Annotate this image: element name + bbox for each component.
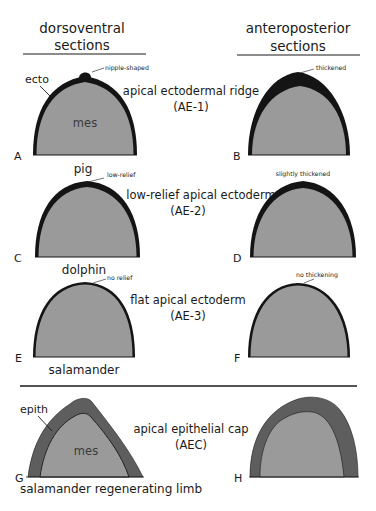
panel-f-limb-section	[248, 283, 350, 357]
header-left-line2: sections	[54, 37, 110, 53]
panel-label-f: F	[234, 352, 240, 365]
annotation-leader	[93, 279, 106, 283]
annotation-leader	[92, 68, 104, 72]
panel-b-limb-section	[248, 72, 350, 155]
panel-h-limb-section	[249, 397, 359, 477]
header-right-line2: sections	[270, 38, 326, 54]
category-ae3: flat apical ectoderm	[130, 293, 245, 307]
annotation-nipple-shaped: nipple-shaped	[105, 64, 149, 72]
annotation-slightly-thickened: slightly thickened	[276, 170, 331, 178]
annotation-leader	[88, 178, 104, 182]
panel-label-b: B	[233, 150, 241, 163]
nipple-ridge-shape	[79, 73, 91, 79]
panel-label-c: C	[14, 252, 22, 265]
label-epith: epith	[20, 403, 48, 416]
panel-c-limb-section	[35, 181, 140, 257]
code-aec: (AEC)	[175, 438, 207, 452]
annotation-leader	[300, 69, 314, 73]
annotation-no-relief: no relief	[107, 274, 133, 281]
header-left-line1: dorsoventral	[39, 20, 124, 36]
panel-e-limb-section	[33, 282, 135, 357]
species-dolphin: dolphin	[62, 263, 106, 277]
annotation-thickened: thickened	[316, 64, 346, 71]
species-salamander: salamander	[49, 363, 120, 377]
limb-bud-diagram: dorsoventral sections anteroposterior se…	[0, 0, 376, 511]
code-ae1: (AE-1)	[173, 100, 209, 114]
annotation-no-thickening: no thickening	[296, 271, 338, 279]
species-salamander-regenerating-limb: salamander regenerating limb	[20, 482, 202, 496]
category-ae2: low-relief apical ectoderm	[126, 188, 275, 202]
label-mes-a: mes	[73, 116, 97, 130]
panel-label-h: H	[234, 472, 242, 485]
code-ae2: (AE-2)	[170, 204, 206, 218]
annotation-leader	[304, 279, 314, 283]
annotation-low-relief: low-relief	[107, 171, 136, 178]
category-aec: apical epithelial cap	[133, 422, 248, 436]
label-ecto: ecto	[25, 73, 49, 86]
species-pig: pig	[74, 162, 93, 176]
ecto-leader	[40, 86, 52, 98]
label-mes-g: mes	[74, 444, 98, 458]
category-ae1: apical ectodermal ridge	[123, 84, 259, 98]
panel-label-e: E	[15, 352, 22, 365]
header-right-line1: anteroposterior	[246, 20, 351, 36]
panel-label-a: A	[14, 150, 22, 163]
code-ae3: (AE-3)	[170, 309, 206, 323]
panel-label-d: D	[233, 252, 241, 265]
